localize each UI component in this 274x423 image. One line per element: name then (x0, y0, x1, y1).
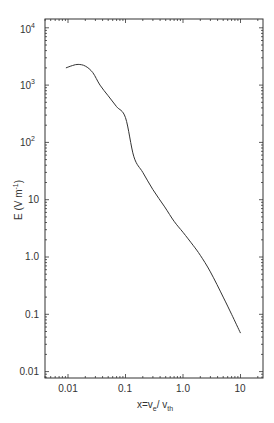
y-tick-0.1: 0.1 (25, 309, 39, 320)
y-tick-10: 10 (28, 194, 40, 205)
y-axis-label: E (V m-1) (12, 180, 24, 220)
y-tick-1000: 103 (20, 78, 35, 91)
y-tick-0.01: 0.01 (20, 366, 40, 377)
x-tick-0.1: 0.1 (118, 383, 132, 394)
axis-ticks (45, 19, 263, 378)
x-tick-1.0: 1.0 (176, 383, 190, 394)
x-tick-labels: 0.01 0.1 1.0 10 (58, 383, 246, 394)
data-line-E (66, 64, 241, 333)
plot-frame (45, 19, 263, 378)
y-tick-1.0: 1.0 (25, 251, 39, 262)
x-tick-0.01: 0.01 (58, 383, 78, 394)
y-tick-100: 102 (20, 135, 35, 148)
chart-svg: 0.01 0.1 1.0 10 102 103 104 0.01 0.1 1.0… (0, 0, 274, 423)
tick-marks (45, 19, 263, 378)
x-axis-label: x=ve/ vth (137, 399, 173, 412)
y-tick-10000: 104 (20, 22, 35, 35)
x-tick-10: 10 (234, 383, 246, 394)
